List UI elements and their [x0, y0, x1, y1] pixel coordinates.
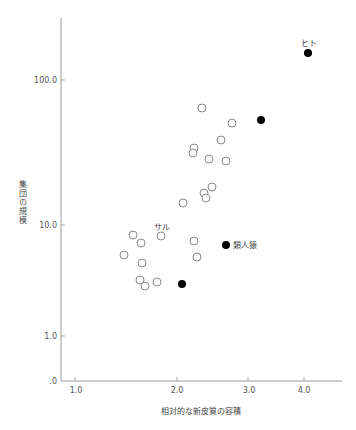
y-tick-label: 100.0 [34, 76, 57, 85]
data-point [153, 278, 161, 286]
axes [61, 18, 342, 381]
y-ticks: 100.0 10.0 1.0 .0 [34, 76, 65, 386]
data-point [157, 232, 165, 240]
label-ape: 類人猿 [233, 240, 257, 250]
data-point [205, 155, 213, 163]
x-axis-title: 相対的な新皮質の容積 [161, 405, 241, 416]
data-point [190, 237, 198, 245]
data-point [178, 280, 186, 288]
label-human: ヒト [301, 39, 317, 48]
data-point [208, 183, 216, 191]
data-point [129, 231, 137, 239]
data-point-human [304, 49, 312, 57]
data-point [202, 194, 210, 202]
scatter-chart: 100.0 10.0 1.0 .0 1.0 2.0 3.0 4.0 [0, 0, 356, 430]
x-ticks: 1.0 2.0 3.0 4.0 [70, 377, 311, 395]
x-tick-label: 4.0 [298, 386, 311, 395]
data-point [138, 259, 146, 267]
data-point [137, 239, 145, 247]
data-point [193, 253, 201, 261]
series-apes-humans [178, 49, 312, 288]
data-point [189, 149, 197, 157]
x-tick-label: 3.0 [243, 386, 256, 395]
y-tick-label: 1.0 [44, 332, 57, 341]
y-tick-label: 10.0 [39, 221, 57, 230]
y-tick-label: .0 [49, 377, 57, 386]
data-point [222, 157, 230, 165]
data-point [217, 136, 225, 144]
data-point [141, 282, 149, 290]
x-tick-label: 1.0 [70, 386, 83, 395]
y-axis-title: 集団の規模 [16, 180, 26, 225]
series-monkeys [120, 104, 236, 290]
data-point [228, 119, 236, 127]
data-point [179, 199, 187, 207]
data-point [120, 251, 128, 259]
data-point-ape [222, 241, 230, 249]
label-monkey: サル [154, 223, 170, 232]
data-point [257, 116, 265, 124]
data-point [198, 104, 206, 112]
x-tick-label: 2.0 [171, 386, 184, 395]
